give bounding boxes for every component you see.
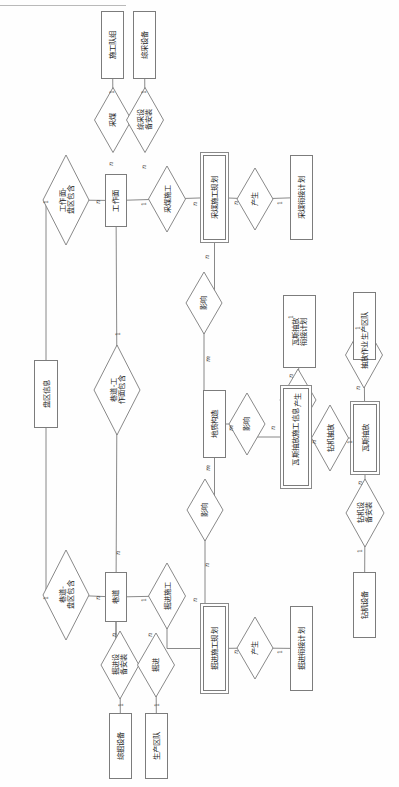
relationship-label: 产生 [251,641,259,655]
relationship-drill-install: 钻机设 备安装 [346,479,384,547]
entity-construction-team: 施工队组 [101,11,124,79]
relationship-label: 钻机抽放 [326,424,334,453]
er-diagram-canvas [0,0,399,787]
relationship-produce-mining: 产生 [237,168,273,230]
relationship-label: 钻机设 备安装 [357,502,372,524]
entity-gas-drainage: 瓦斯抽放 [353,404,377,472]
relationship-label: 综采设 备安装 [137,109,152,131]
relationship-label: 影响 [200,296,208,310]
entity-roadway: 巷道 [105,572,127,622]
relationship-label: 产生 [251,192,259,206]
entity-label: 采煤衔接计划 [298,176,306,219]
relationship-label: 巷道-工 作面包含 [109,376,124,405]
relationship-tunneling: 掘进 [138,633,175,697]
relationship-mining-construction: 采煤施工 [149,166,186,232]
entity-prod-team-tunnel: 生产区队 [145,713,168,779]
entity-tunnel-schedule: 掘进衔接计划 [290,606,313,691]
relationship-label: 影响 [243,417,251,431]
relationship-affect-geo-gas: 影响 [229,393,265,455]
relationship-face-panel-contains: 工作面- 盘区包含 [43,155,89,245]
entity-tunnel-plan: 掘进施工规划 [203,606,226,691]
relationship-roadway-panel-contains: 巷道- 盘区包含 [43,550,89,640]
relationship-label: 掘进施工 [163,582,171,611]
relationship-label: 掘进 [152,658,160,672]
entity-working-face: 工作面 [105,174,127,227]
relationship-drill-drain: 钻机抽放 [312,405,349,471]
entity-gas-schedule: 瓦斯抽放 衔接计划 [283,295,316,368]
relationship-label: 产生 [294,393,302,407]
relationship-tunnel-construction: 掘进施工 [149,563,186,629]
relationship-affect-plan: 影响 [186,272,222,334]
entity-label: 生产区队 [153,732,161,761]
entity-label: 掘进施工规划 [211,627,219,670]
entity-label: 施工队组 [109,31,117,60]
relationship-label: 巷道- 盘区包含 [58,581,73,610]
entity-tunnel-equipment: 综掘设备 [109,713,132,779]
diagram-page: 施工队组综采设备工作面采煤施工规划采煤衔接计划瓦斯抽放 衔接计划生产区队地质构造… [0,0,399,787]
relationship-label: 工作面- 盘区包含 [58,186,73,215]
entity-label: 瓦斯抽放 [361,424,369,453]
entity-label: 瓦斯抽放 衔接计划 [292,317,308,346]
relationship-drain-operation: 抽放作业 [346,322,383,388]
relationship-equip-install: 综采设 备安装 [127,88,164,153]
entity-label: 掘进衔接计划 [298,627,306,670]
relationship-label: 影响 [201,503,209,517]
entity-label: 地质构造 [211,410,219,439]
entity-drill-equipment: 钻机设备 [353,572,376,638]
relationship-roadway-face-contains: 巷道-工 作面包含 [94,345,140,435]
entity-label: 综采设备 [141,31,149,60]
entity-mining-schedule: 采煤衔接计划 [290,155,313,240]
relationship-label: 抽放作业 [360,341,368,370]
entity-label: 采煤施工规划 [211,176,219,219]
entity-mining-equipment: 综采设备 [133,11,156,79]
entity-geology: 地质构造 [203,390,226,458]
relationship-affect-geo-tunnel: 影响 [187,479,223,541]
entity-label: 钻机设备 [361,591,369,620]
entity-label: 巷道 [112,590,120,604]
entity-mining-plan: 采煤施工规划 [203,155,226,240]
entity-label: 工作面 [112,190,120,212]
entity-label: 盘区信息 [42,380,50,409]
entity-label: 综掘设备 [117,732,125,761]
entity-panel-info: 盘区信息 [34,360,58,428]
relationship-tunnel-equip-install: 掘进设 备安装 [101,631,139,699]
relationship-label: 采煤 [109,113,117,127]
relationship-produce-tunnel: 产生 [237,617,273,679]
relationship-label: 掘进设 备安装 [112,654,127,676]
relationship-label: 采煤施工 [163,185,171,214]
